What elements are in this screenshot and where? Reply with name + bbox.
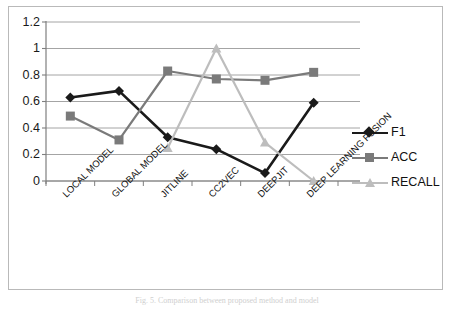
y-axis-tick-label: 0 [0, 175, 40, 188]
figure-caption: Fig. 5. Comparison between proposed meth… [0, 296, 454, 315]
y-axis-tick-label: 1 [0, 42, 40, 55]
legend-item: F1 [352, 120, 448, 145]
legend-label: F1 [391, 126, 406, 139]
legend-marker-acc-icon [352, 151, 388, 165]
figure-container: 00.20.40.60.811.2 LOCAL MODELGLOBAL MODE… [0, 0, 454, 315]
legend-label: ACC [391, 151, 417, 164]
legend-label: RECALL [391, 176, 440, 189]
legend-item: RECALL [352, 170, 448, 195]
chart-legend: F1ACCRECALL [352, 120, 448, 195]
legend-marker-recall-icon [352, 176, 388, 190]
y-axis-tick-label: 0.8 [0, 69, 40, 82]
y-axis-tick-label: 0.4 [0, 122, 40, 135]
legend-marker-f1-icon [352, 126, 388, 140]
y-axis-tick-label: 0.6 [0, 95, 40, 108]
y-axis-tick-label: 0.2 [0, 148, 40, 161]
legend-item: ACC [352, 145, 448, 170]
y-axis-tick-label: 1.2 [0, 16, 40, 29]
